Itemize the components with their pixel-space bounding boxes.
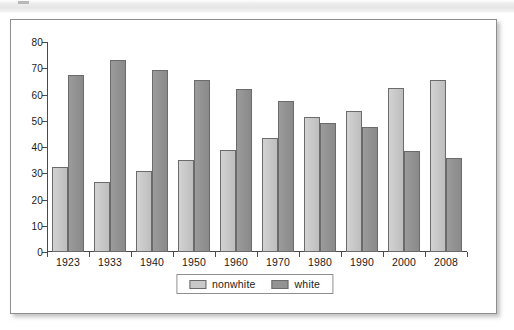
chart-plot-area: 01020304050607080 1923193319401950196019… — [11, 20, 498, 315]
y-tick-label: 30 — [31, 168, 43, 179]
x-axis-label: 1933 — [89, 256, 131, 268]
bar-nonwhite-1940 — [136, 171, 152, 252]
x-axis-label: 1960 — [215, 256, 257, 268]
x-axis-label: 1970 — [257, 256, 299, 268]
x-axis-label: 1923 — [47, 256, 89, 268]
y-tick-label: 70 — [31, 63, 43, 74]
bar-white-1933 — [110, 60, 126, 252]
scan-artifact-mark — [18, 1, 29, 4]
bar-white-2008 — [446, 158, 462, 252]
y-tick-label: 20 — [31, 194, 43, 205]
bar-group — [131, 42, 173, 252]
bar-white-2000 — [404, 151, 420, 252]
bar-group — [47, 42, 89, 252]
legend-item-white: white — [272, 278, 321, 290]
bar-white-1980 — [320, 123, 336, 252]
legend-label: white — [295, 278, 321, 290]
bar-nonwhite-2008 — [430, 80, 446, 252]
bar-white-1950 — [194, 80, 210, 252]
y-tick-label: 80 — [31, 37, 43, 48]
x-tick-mark — [467, 252, 468, 257]
bar-white-1990 — [362, 127, 378, 252]
x-axis-label: 1980 — [299, 256, 341, 268]
legend-label: nonwhite — [212, 278, 256, 290]
legend-swatch-icon — [272, 280, 289, 289]
y-tick-label: 10 — [31, 220, 43, 231]
bar-nonwhite-1980 — [304, 117, 320, 252]
y-tick-label: 50 — [31, 115, 43, 126]
bar-chart-figure-card: 01020304050607080 1923193319401950196019… — [10, 19, 497, 314]
y-tick-label: 0 — [37, 247, 43, 258]
bar-group — [425, 42, 467, 252]
legend-swatch-icon — [189, 280, 206, 289]
y-tick-label: 40 — [31, 142, 43, 153]
x-axis-label: 1940 — [131, 256, 173, 268]
bar-group — [215, 42, 257, 252]
bars-layer — [47, 42, 467, 252]
bar-nonwhite-1970 — [262, 138, 278, 252]
bar-group — [341, 42, 383, 252]
x-axis-label: 1990 — [341, 256, 383, 268]
x-axis-label: 2000 — [383, 256, 425, 268]
x-axis-label: 1950 — [173, 256, 215, 268]
bar-white-1970 — [278, 101, 294, 252]
page-scan-artifact-band — [0, 0, 514, 13]
bar-nonwhite-1923 — [52, 167, 68, 252]
x-axis-label: 2008 — [425, 256, 467, 268]
y-tick-label: 60 — [31, 89, 43, 100]
bar-white-1923 — [68, 75, 84, 252]
chart-legend: nonwhitewhite — [176, 274, 333, 294]
bar-nonwhite-1990 — [346, 111, 362, 252]
bar-white-1960 — [236, 89, 252, 252]
bar-white-1940 — [152, 70, 168, 252]
bar-nonwhite-1933 — [94, 182, 110, 252]
chart-axes: 01020304050607080 1923193319401950196019… — [47, 42, 467, 252]
bar-nonwhite-1950 — [178, 160, 194, 252]
bar-group — [173, 42, 215, 252]
bar-group — [383, 42, 425, 252]
bar-group — [299, 42, 341, 252]
bar-group — [257, 42, 299, 252]
bar-group — [89, 42, 131, 252]
bar-nonwhite-2000 — [388, 88, 404, 252]
legend-item-nonwhite: nonwhite — [189, 278, 256, 290]
bar-nonwhite-1960 — [220, 150, 236, 252]
